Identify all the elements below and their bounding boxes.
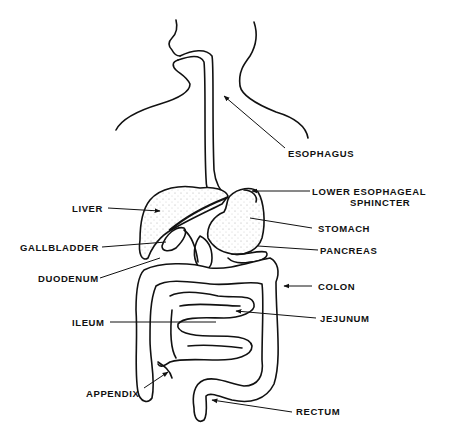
label-appendix: APPENDIX bbox=[86, 388, 139, 399]
digestive-system-diagram bbox=[0, 0, 449, 434]
esophagus-inner bbox=[178, 57, 212, 201]
label-ileum: ILEUM bbox=[72, 317, 105, 328]
label-duodenum: DUODENUM bbox=[38, 273, 99, 284]
label-pancreas: PANCREAS bbox=[320, 245, 377, 256]
face-profile-outline bbox=[116, 20, 190, 130]
label-lower-esophageal-line1: LOWER ESOPHAGEAL bbox=[312, 186, 426, 197]
leader-rectum bbox=[212, 400, 292, 412]
small-intestine-outline bbox=[158, 292, 254, 366]
label-gallbladder: GALLBLADDER bbox=[20, 242, 99, 253]
label-stomach: STOMACH bbox=[318, 223, 370, 234]
leader-esophagus bbox=[224, 96, 285, 148]
label-jejunum: JEJUNUM bbox=[320, 313, 370, 324]
colon-outline bbox=[136, 258, 278, 421]
leader-gallbladder bbox=[102, 242, 166, 247]
label-colon: COLON bbox=[318, 281, 355, 292]
label-rectum: RECTUM bbox=[296, 406, 340, 417]
label-liver: LIVER bbox=[72, 203, 103, 214]
label-lower-esophageal-line2: SPHINCTER bbox=[350, 197, 410, 208]
leader-pancreas bbox=[258, 246, 318, 250]
label-esophagus: ESOPHAGUS bbox=[288, 148, 354, 159]
neck-outline bbox=[240, 22, 308, 138]
